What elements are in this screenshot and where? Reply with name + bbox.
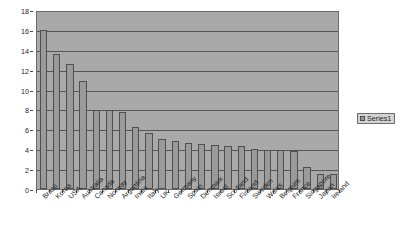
y-tick-mark-12 xyxy=(30,71,33,72)
y-tick-12: 12 xyxy=(21,66,29,75)
y-tick-mark-10 xyxy=(30,91,33,92)
bar-korea xyxy=(53,54,60,189)
x-tick-mark-0 xyxy=(36,190,37,193)
bar-series xyxy=(37,12,338,189)
bar-germany xyxy=(172,141,179,189)
y-tick-mark-8 xyxy=(30,110,33,111)
y-tick-6: 6 xyxy=(25,126,29,135)
y-tick-mark-2 xyxy=(30,170,33,171)
y-tick-mark-0 xyxy=(30,190,33,191)
legend: Series1 xyxy=(357,113,395,124)
bar-usa xyxy=(66,64,73,189)
bar-australia xyxy=(79,81,86,189)
x-axis-category-labels: BrazilKoreaUSAAustraliaCanadaNorwayArgen… xyxy=(36,190,339,249)
y-tick-2: 2 xyxy=(25,166,29,175)
y-tick-4: 4 xyxy=(25,146,29,155)
bar-uk xyxy=(158,139,165,189)
legend-label-series1: Series1 xyxy=(367,115,391,122)
y-tick-mark-18 xyxy=(30,11,33,12)
bar-brazil xyxy=(40,30,47,189)
bar-italy xyxy=(145,133,152,189)
y-tick-mark-4 xyxy=(30,150,33,151)
y-tick-mark-16 xyxy=(30,31,33,32)
y-tick-mark-14 xyxy=(30,51,33,52)
bar-chart: Total Entrepreneurial Activity 024681012… xyxy=(0,0,412,249)
y-tick-10: 10 xyxy=(21,86,29,95)
plot-area xyxy=(36,11,339,190)
legend-swatch-series1 xyxy=(360,116,365,121)
y-axis-tick-labels: 024681012141618 xyxy=(16,0,33,200)
y-tick-8: 8 xyxy=(25,106,29,115)
bar-scotland xyxy=(224,146,231,189)
y-tick-0: 0 xyxy=(25,186,29,195)
y-tick-mark-6 xyxy=(30,130,33,131)
y-tick-16: 16 xyxy=(21,26,29,35)
x-label-uk: UK xyxy=(159,188,171,200)
y-tick-14: 14 xyxy=(21,46,29,55)
y-tick-18: 18 xyxy=(21,7,29,16)
